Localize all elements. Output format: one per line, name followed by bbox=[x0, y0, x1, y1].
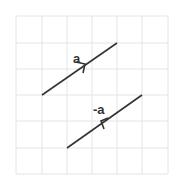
label-neg-a: -a bbox=[93, 102, 105, 117]
label-a: a bbox=[73, 51, 80, 66]
vector-diagram bbox=[0, 0, 179, 189]
grid bbox=[16, 16, 168, 174]
